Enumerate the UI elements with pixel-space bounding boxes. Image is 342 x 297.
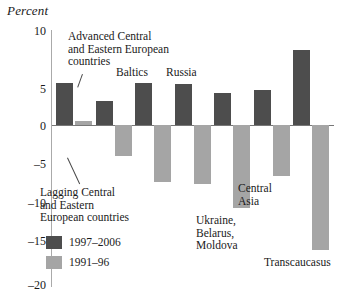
bar-light-group-2: [115, 125, 132, 156]
bar-light-group-3: [154, 125, 171, 182]
annotation-russia: Russia: [166, 66, 197, 79]
chart-legend: 1997–2006 1991–96: [46, 232, 121, 272]
annotation-advanced-countries: Advanced Central and Eastern European co…: [68, 30, 198, 68]
legend-label-1991-96: 1991–96: [69, 256, 109, 268]
y-tick-minus-20: –20: [2, 279, 46, 291]
bar-dark-group-2: [96, 101, 113, 125]
bar-dark-group-6: [254, 90, 271, 125]
legend-swatch-dark: [46, 236, 62, 249]
annotation-baltics: Baltics: [116, 66, 148, 79]
annotation-ukraine-belarus-moldova: Ukraine, Belarus, Moldova: [196, 214, 238, 252]
legend-item-1991-96: 1991–96: [46, 252, 121, 272]
legend-item-1997-2006: 1997–2006: [46, 232, 121, 252]
bar-light-group-4: [194, 125, 211, 184]
bar-dark-group-7: [293, 50, 310, 125]
y-axis-tick-labels: 10 5 0 –5 –10 –15 –20: [0, 0, 46, 297]
y-tick-10: 10: [2, 25, 46, 37]
y-tick-minus-15: –15: [2, 235, 46, 247]
chart-figure: Percent 10 5 0 –5 –10 –15 –20 Advanced C…: [0, 0, 342, 297]
legend-swatch-light: [46, 256, 62, 269]
y-tick-minus-5: –5: [2, 158, 46, 170]
y-tick-0: 0: [2, 120, 46, 132]
bar-light-group-1: [75, 121, 92, 125]
y-tick-5: 5: [2, 83, 46, 95]
bar-dark-group-1: [56, 83, 73, 125]
bar-dark-group-3: [135, 83, 152, 125]
bar-dark-group-5: [214, 93, 231, 125]
bar-light-group-6: [273, 125, 290, 176]
legend-label-1997-2006: 1997–2006: [69, 236, 121, 248]
annotation-central-asia: Central Asia: [238, 182, 272, 207]
annotation-transcaucasus: Transcaucasus: [264, 256, 331, 269]
annotation-lagging-countries: Lagging Central and Eastern European cou…: [40, 186, 160, 224]
bar-light-group-7: [312, 125, 329, 250]
bar-dark-group-4: [175, 84, 192, 125]
